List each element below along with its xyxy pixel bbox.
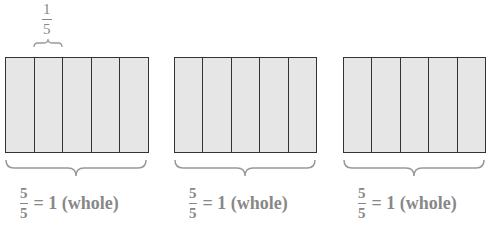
fraction: 5 5 <box>358 186 366 221</box>
segment <box>458 58 485 152</box>
whole-bar-2 <box>174 57 317 153</box>
fraction-bar <box>189 203 197 204</box>
fraction: 5 5 <box>20 186 28 221</box>
numerator: 1 <box>42 2 52 17</box>
whole-bar-3 <box>343 57 486 153</box>
denominator: 5 <box>20 206 28 221</box>
denominator: 5 <box>42 22 52 37</box>
denominator: 5 <box>358 206 366 221</box>
whole-bar-1 <box>5 57 149 153</box>
segment <box>92 58 121 152</box>
segment <box>6 58 35 152</box>
segment <box>35 58 64 152</box>
segment <box>372 58 400 152</box>
fraction: 5 5 <box>189 186 197 221</box>
bottom-brace-2 <box>175 160 315 176</box>
equation-text: = 1 (whole) <box>34 193 119 214</box>
fraction-bar <box>42 19 52 20</box>
segment <box>429 58 457 152</box>
fraction-bar <box>358 203 366 204</box>
numerator: 5 <box>358 186 366 201</box>
segment <box>203 58 231 152</box>
whole-label-2: 5 5 = 1 (whole) <box>189 186 288 221</box>
whole-label-1: 5 5 = 1 (whole) <box>20 186 119 221</box>
bottom-brace-3 <box>344 160 484 176</box>
segment <box>63 58 92 152</box>
segment <box>232 58 260 152</box>
fraction-bar <box>20 203 28 204</box>
one-fifth-annotation: 1 5 <box>42 2 52 37</box>
segment <box>344 58 372 152</box>
equation-text: = 1 (whole) <box>372 193 457 214</box>
denominator: 5 <box>189 206 197 221</box>
numerator: 5 <box>20 186 28 201</box>
numerator: 5 <box>189 186 197 201</box>
segment <box>401 58 429 152</box>
top-brace <box>34 39 62 47</box>
segment <box>120 58 148 152</box>
fraction-diagram: 1 5 5 5 = 1 (whole) 5 5 <box>0 0 496 228</box>
segment <box>175 58 203 152</box>
bottom-brace-1 <box>6 160 146 176</box>
segment <box>260 58 288 152</box>
equation-text: = 1 (whole) <box>203 193 288 214</box>
whole-label-3: 5 5 = 1 (whole) <box>358 186 457 221</box>
segment <box>289 58 316 152</box>
